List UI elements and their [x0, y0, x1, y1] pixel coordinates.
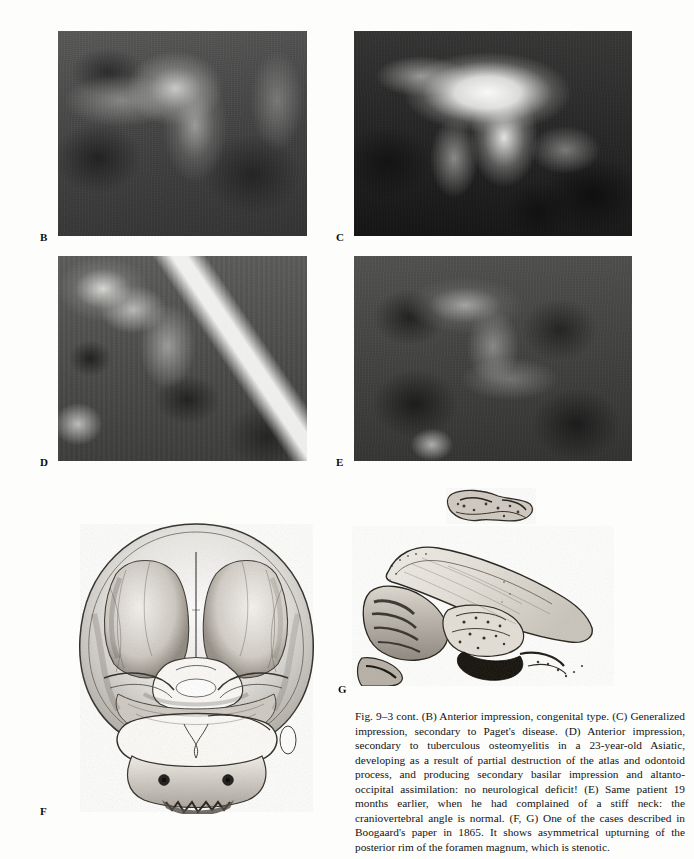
- radiograph-image-b: [58, 31, 307, 236]
- figure-panel-e: [354, 256, 632, 461]
- plate-label-b: B: [40, 232, 48, 243]
- figure-panel-f: [58, 518, 334, 814]
- radiograph-image-d: [58, 256, 307, 461]
- engraving-image-f: [58, 518, 334, 814]
- figure-caption: Fig. 9–3 cont. (B) Anterior impression, …: [355, 709, 685, 854]
- plate-label-g: G: [338, 684, 347, 695]
- figure-panel-b: [58, 31, 307, 236]
- figure-page: B C D E: [0, 0, 694, 859]
- plate-label-f: F: [40, 806, 47, 817]
- figure-panel-d: [58, 256, 307, 461]
- bone-fragment: [446, 488, 536, 524]
- figure-panel-g: [352, 486, 614, 686]
- plate-label-e: E: [336, 457, 344, 468]
- radiograph-image-c: [354, 31, 632, 236]
- radiograph-image-e: [354, 256, 632, 461]
- plate-label-c: C: [336, 232, 344, 243]
- plate-label-d: D: [40, 457, 48, 468]
- engraving-image-g: [352, 486, 614, 686]
- figure-panel-c: [354, 31, 632, 236]
